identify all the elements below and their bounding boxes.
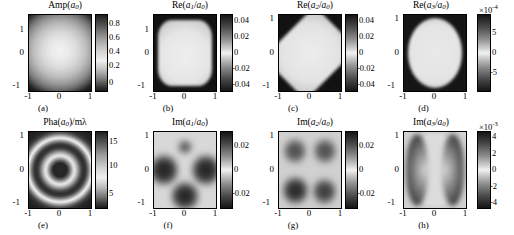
panel-g-colorbar-gradient bbox=[346, 132, 357, 208]
panel-g-lobe-bottom-left bbox=[283, 176, 308, 205]
panel-a-xtick-neg1: -1 bbox=[19, 92, 37, 101]
panel-h-title-denom-sub: 0 bbox=[442, 120, 446, 128]
panel-e-title-suffix: /mλ bbox=[72, 117, 87, 127]
panel-e-axes bbox=[28, 131, 92, 209]
panel-c-xtick-0: 0 bbox=[300, 92, 318, 101]
panel-f-ytick-neg1: -1 bbox=[129, 198, 145, 207]
panel-g-ytick-1: 1 bbox=[258, 131, 274, 140]
panel-c-title: Re(a2/a0) bbox=[252, 0, 378, 13]
panel-c-label: (c) bbox=[230, 103, 356, 113]
panel-g-cbar-tick-1: 0 bbox=[359, 165, 363, 174]
panel-f-lobe-right bbox=[192, 153, 217, 186]
panel-f-title-denom-sub: 0 bbox=[201, 120, 205, 128]
panel-h-crescent-right bbox=[442, 134, 463, 205]
panel-h-ytick-neg1: -1 bbox=[379, 198, 395, 207]
panel-h-image bbox=[404, 132, 466, 208]
panel-a-title: Amp(a0) bbox=[2, 0, 128, 13]
panel-a-title-arg-sub: 0 bbox=[75, 3, 79, 11]
panel-a-title-fn: Amp bbox=[48, 0, 67, 10]
panel-c-xtick-1: 1 bbox=[331, 92, 349, 101]
panel-f-cbar-tick-0: 0.02 bbox=[234, 141, 249, 150]
panel-d-label: (d) bbox=[355, 103, 492, 113]
panel-g-label: (g) bbox=[230, 220, 356, 230]
panel-d-colorbar-gradient bbox=[478, 15, 490, 91]
panel-b-cbar-tick-0: 0.04 bbox=[234, 16, 249, 25]
panel-a-ytick-neg1: -1 bbox=[4, 81, 20, 90]
panel-d-xtick-neg1: -1 bbox=[394, 92, 412, 101]
panel-b-ytick-0: 0 bbox=[133, 48, 149, 57]
panel-c-ytick-neg1: -1 bbox=[254, 81, 270, 90]
panel-b-cbar-tick-2: 0 bbox=[234, 48, 238, 57]
panel-c-title-arg-sub: 2 bbox=[315, 3, 319, 11]
panel-f-colorbar-gradient bbox=[221, 132, 232, 208]
panel-d-title-arg-sub: 3 bbox=[431, 3, 435, 11]
panel-d-ytick-0: 0 bbox=[383, 48, 399, 57]
panel-d-cbar-exponent: ×10-4 bbox=[479, 2, 498, 15]
panel-g-xtick-1: 1 bbox=[331, 209, 349, 218]
panel-d: Re(a3/a0) 1 0 -1 -1 0 1 (d) ×10-4 5 0 -5 bbox=[377, 0, 514, 117]
panel-g-xtick-neg1: -1 bbox=[269, 209, 287, 218]
panel-h-cbar-exponent-power: -3 bbox=[492, 120, 497, 127]
panel-e-xtick-0: 0 bbox=[50, 209, 68, 218]
panel-c-title-fn: Re bbox=[297, 0, 308, 10]
panel-d-colorbar bbox=[477, 14, 491, 92]
panel-g-cbar-tick-2: -0.02 bbox=[357, 189, 375, 198]
panel-c-cbar-tick-3: -0.02 bbox=[357, 64, 375, 73]
panel-g: Im(a2/a0) 1 0 -1 -1 0 1 (g) 0.02 0 -0.02 bbox=[252, 117, 378, 235]
panel-d-title-denom-sub: 0 bbox=[442, 3, 446, 11]
panel-a-colorbar-gradient bbox=[96, 15, 107, 91]
panel-b-cbar-tick-1: 0.02 bbox=[234, 32, 249, 41]
panel-g-lobe-bottom-right bbox=[313, 178, 337, 205]
panel-a-cbar-tick-4: 0 bbox=[109, 78, 113, 87]
panel-a-colorbar bbox=[95, 14, 108, 92]
panel-e-ytick-0: 0 bbox=[8, 165, 24, 174]
panel-f-xtick-neg1: -1 bbox=[144, 209, 162, 218]
panel-h-axes bbox=[403, 131, 467, 209]
panel-e-image bbox=[29, 132, 91, 208]
panel-a-xtick-0: 0 bbox=[50, 92, 68, 101]
panel-g-title-denom-sub: 0 bbox=[326, 120, 330, 128]
panel-d-axes bbox=[403, 14, 467, 92]
panel-f-lobe-bottom bbox=[171, 181, 198, 209]
panel-b-label: (b) bbox=[105, 103, 231, 113]
panel-f-title-fn: Im bbox=[172, 117, 183, 127]
panel-h-xtick-0: 0 bbox=[425, 209, 443, 218]
panel-e-title: Pha(a0)/mλ bbox=[2, 117, 128, 130]
panel-h-label: (h) bbox=[355, 220, 492, 230]
panel-g-axes bbox=[278, 131, 342, 209]
panel-b-cbar-tick-4: -0.04 bbox=[232, 80, 250, 89]
panel-f-ytick-1: 1 bbox=[133, 131, 149, 140]
panel-f-cbar-tick-1: 0 bbox=[234, 165, 238, 174]
panel-c: Re(a2/a0) 1 0 -1 -1 0 1 (c) 0.04 0.02 0 … bbox=[252, 0, 378, 117]
panel-e-ytick-1: 1 bbox=[8, 131, 24, 140]
panel-c-ytick-1: 1 bbox=[258, 14, 274, 23]
panel-h-title-fn: Im bbox=[413, 117, 424, 127]
panel-f-lobe-top bbox=[178, 140, 192, 154]
panel-f-axes bbox=[153, 131, 217, 209]
panel-g-lobe-top-right bbox=[314, 138, 336, 164]
panel-h-title-arg-sub: 3 bbox=[431, 120, 435, 128]
panel-e-colorbar bbox=[95, 131, 108, 209]
panel-d-cbar-exponent-power: -4 bbox=[492, 3, 497, 10]
panel-g-image bbox=[279, 132, 341, 208]
panel-a-ytick-0: 0 bbox=[8, 48, 24, 57]
panel-h-xtick-neg1: -1 bbox=[394, 209, 412, 218]
panel-f-lobe-left bbox=[153, 153, 178, 186]
panel-b-title: Re(a1/a0) bbox=[127, 0, 253, 13]
panel-b-axes bbox=[153, 14, 217, 92]
panel-a: Amp(a0) 1 0 -1 -1 0 1 (a) 0.8 0.6 0.4 0.… bbox=[2, 0, 128, 117]
panel-a-cbar-tick-2: 0.4 bbox=[109, 47, 120, 56]
panel-d-image bbox=[404, 15, 466, 91]
panel-a-cbar-tick-1: 0.6 bbox=[109, 33, 120, 42]
panel-d-cbar-tick-0: 5 bbox=[492, 28, 496, 37]
panel-f-title-arg-sub: 1 bbox=[190, 120, 194, 128]
panel-d-title: Re(a3/a0) bbox=[381, 0, 481, 13]
panel-c-cbar-tick-4: -0.04 bbox=[357, 80, 375, 89]
panel-g-lobe-top-left bbox=[284, 138, 306, 164]
panel-e-label: (e) bbox=[0, 220, 106, 230]
panel-g-ytick-0: 0 bbox=[258, 165, 274, 174]
panel-e-xtick-neg1: -1 bbox=[19, 209, 37, 218]
panel-a-image bbox=[29, 15, 91, 91]
panel-h-cbar-tick-2: 0 bbox=[492, 165, 496, 174]
panel-d-xtick-1: 1 bbox=[456, 92, 474, 101]
